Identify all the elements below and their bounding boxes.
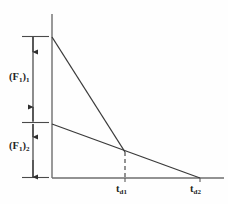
force-1-label: (F1)1: [9, 71, 29, 84]
steep-pulse-line: [52, 37, 125, 152]
force-1-sub-outer: 1: [26, 76, 30, 84]
figure-canvas: [0, 0, 228, 204]
shallow-pulse-line: [52, 124, 200, 178]
time-2-sub: d2: [194, 188, 201, 196]
axes-group: [52, 14, 224, 178]
time-1-label: td1: [116, 183, 127, 196]
time-1-sub: d1: [120, 188, 127, 196]
force-2-base: (F: [9, 140, 19, 151]
force-decay-figure: (F1)1 (F1)2 td1 td2: [0, 0, 228, 204]
dimension-ticks-group: [22, 37, 49, 178]
force-2-label: (F1)2: [9, 140, 29, 153]
force-1-base: (F: [9, 71, 19, 82]
data-lines-group: [52, 37, 200, 178]
time-2-label: td2: [190, 183, 201, 196]
force-2-sub-outer: 2: [26, 145, 30, 153]
